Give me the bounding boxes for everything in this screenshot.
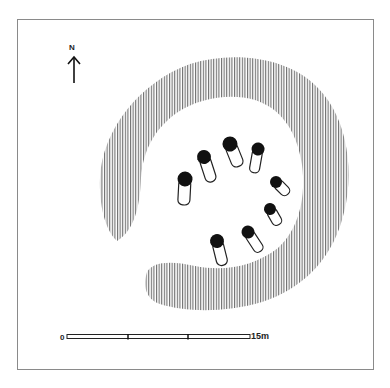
- stone-1: [176, 171, 193, 205]
- stones-layer: [0, 0, 390, 388]
- scale-bar: [66, 333, 252, 341]
- stone-7: [239, 223, 266, 255]
- stone-6: [262, 201, 284, 228]
- stone-4: [247, 141, 265, 173]
- scale-end-label: 15m: [251, 331, 269, 341]
- scale-start-label: 0: [60, 333, 64, 342]
- stone-2: [195, 148, 219, 184]
- stone-5: [268, 174, 293, 199]
- stone-8: [209, 233, 230, 267]
- stone-3: [220, 134, 246, 169]
